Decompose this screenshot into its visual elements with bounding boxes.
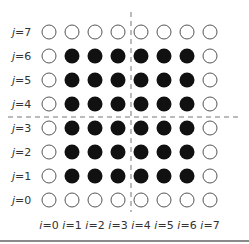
filled-point (134, 73, 149, 88)
hollow-point (203, 73, 217, 87)
filled-point (134, 169, 149, 184)
filled-point (88, 169, 103, 184)
filled-point (134, 97, 149, 112)
filled-point (65, 169, 80, 184)
filled-point (111, 97, 126, 112)
hollow-point (180, 193, 194, 207)
filled-point (157, 97, 172, 112)
hollow-point (111, 193, 125, 207)
hollow-point (203, 49, 217, 63)
column-label: i=5 (154, 219, 173, 232)
column-label: i=7 (200, 219, 219, 232)
filled-point (180, 97, 195, 112)
filled-point (111, 73, 126, 88)
filled-point (65, 145, 80, 160)
row-label: j=5 (10, 74, 31, 87)
column-label: i=0 (39, 219, 58, 232)
row-label: j=1 (10, 170, 31, 183)
column-labels: i=0i=1i=2i=3i=4i=5i=6i=7 (39, 219, 219, 232)
hollow-point (111, 25, 125, 39)
filled-point (157, 73, 172, 88)
hollow-point (203, 193, 217, 207)
filled-point (111, 49, 126, 64)
filled-point (157, 169, 172, 184)
hollow-point (42, 193, 56, 207)
filled-point (65, 49, 80, 64)
column-label: i=6 (177, 219, 196, 232)
hollow-point (42, 73, 56, 87)
hollow-point (134, 25, 148, 39)
hollow-point (65, 25, 79, 39)
row-label: j=2 (10, 146, 31, 159)
hollow-point (42, 121, 56, 135)
row-label: j=3 (10, 122, 31, 135)
hollow-point (42, 25, 56, 39)
hollow-point (42, 49, 56, 63)
hollow-point (203, 145, 217, 159)
filled-point (111, 121, 126, 136)
hollow-point (203, 25, 217, 39)
hollow-point (157, 25, 171, 39)
filled-point (157, 121, 172, 136)
row-label: j=4 (10, 98, 31, 111)
hollow-point (42, 145, 56, 159)
column-label: i=2 (85, 219, 104, 232)
row-label: j=7 (10, 26, 31, 39)
column-label: i=3 (108, 219, 127, 232)
filled-point (134, 121, 149, 136)
filled-point (88, 49, 103, 64)
filled-point (180, 145, 195, 160)
hollow-point (88, 193, 102, 207)
column-label: i=1 (62, 219, 81, 232)
filled-point (88, 73, 103, 88)
hollow-point (65, 193, 79, 207)
filled-point (134, 145, 149, 160)
filled-point (111, 169, 126, 184)
hollow-point (203, 121, 217, 135)
filled-point (65, 97, 80, 112)
hollow-point (157, 193, 171, 207)
filled-point (65, 121, 80, 136)
row-label: j=0 (10, 194, 31, 207)
filled-point (88, 97, 103, 112)
filled-point (88, 121, 103, 136)
filled-point (157, 49, 172, 64)
filled-point (134, 49, 149, 64)
filled-point (88, 145, 103, 160)
filled-point (180, 169, 195, 184)
hollow-point (42, 97, 56, 111)
hollow-point (134, 193, 148, 207)
filled-point (180, 49, 195, 64)
grid-diagram: j=7j=6j=5j=4j=3j=2j=1j=0 i=0i=1i=2i=3i=4… (0, 0, 249, 244)
hollow-point (203, 97, 217, 111)
row-label: j=6 (10, 50, 31, 63)
grid-points (42, 25, 217, 207)
filled-point (157, 145, 172, 160)
filled-point (111, 145, 126, 160)
column-label: i=4 (131, 219, 150, 232)
hollow-point (180, 25, 194, 39)
hollow-point (203, 169, 217, 183)
hollow-point (42, 169, 56, 183)
filled-point (180, 121, 195, 136)
filled-point (180, 73, 195, 88)
bottom-rule (0, 240, 249, 242)
hollow-point (88, 25, 102, 39)
filled-point (65, 73, 80, 88)
